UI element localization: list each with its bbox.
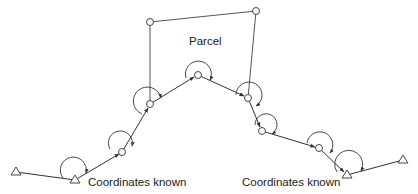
parcel-label: Parcel (189, 36, 222, 48)
circle-icon (147, 19, 154, 26)
traverse-lines (16, 75, 403, 180)
triangle-icon (398, 155, 408, 163)
circle-icon (316, 145, 323, 152)
circle-icon (253, 8, 260, 15)
circle-icon (147, 101, 154, 108)
traverse-diagram (0, 0, 418, 194)
known-coordinates-right-label: Coordinates known (242, 177, 340, 189)
known-points (11, 155, 408, 183)
triangle-icon (11, 167, 21, 175)
circle-icon (259, 128, 266, 135)
circle-icon (245, 95, 252, 102)
traverse-points (119, 8, 323, 156)
known-coordinates-left-label: Coordinates known (88, 177, 186, 189)
parcel-boundary (150, 11, 256, 104)
angle-arcs (60, 61, 362, 178)
circle-icon (195, 72, 202, 79)
triangle-icon (70, 175, 80, 183)
circle-icon (119, 149, 126, 156)
